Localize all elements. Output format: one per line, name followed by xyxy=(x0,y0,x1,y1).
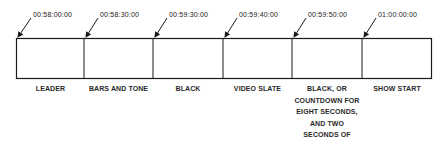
timecode-arrow-icon xyxy=(155,18,167,37)
timeline-diagram: 00:58:00:00 00:58:30:00 00:59:30:00 00:5… xyxy=(0,0,444,144)
segment-label-video-slate: VIDEO SLATE xyxy=(223,83,292,95)
countdown-line: BLACK, OR xyxy=(290,83,364,95)
timecode-label: 00:59:30:00 xyxy=(169,11,208,18)
timecode-label: 00:59:50:00 xyxy=(308,11,347,18)
timecode-arrow-icon xyxy=(225,18,237,37)
countdown-line: AND TWO xyxy=(290,118,364,130)
timecode-arrow-icon xyxy=(294,18,306,37)
countdown-line: SECONDS OF xyxy=(290,129,364,141)
timecode-arrow-icon xyxy=(18,18,31,37)
segment-label-show-start: SHOW START xyxy=(362,83,432,95)
segment-label-black: BLACK xyxy=(153,83,223,95)
segment-label-bars-and-tone: BARS AND TONE xyxy=(84,83,153,95)
timecode-arrow-icon xyxy=(364,18,376,37)
countdown-line: EIGHT SECONDS, xyxy=(290,106,364,118)
timecode-label: 00:59:40:00 xyxy=(239,11,278,18)
timecode-label: 01:00:00:00 xyxy=(378,11,417,18)
timecode-arrow-icon xyxy=(86,18,98,37)
segment-label-countdown: BLACK, OR COUNTDOWN FOR EIGHT SECONDS, A… xyxy=(290,83,364,144)
timecode-label: 00:58:30:00 xyxy=(100,11,139,18)
timeline-box xyxy=(17,39,432,79)
countdown-line: COUNTDOWN FOR xyxy=(290,95,364,107)
timecode-label: 00:58:00:00 xyxy=(33,11,72,18)
timeline-graphic xyxy=(0,0,444,144)
segment-label-leader: LEADER xyxy=(17,83,84,95)
countdown-line: BLACK. xyxy=(290,141,364,145)
